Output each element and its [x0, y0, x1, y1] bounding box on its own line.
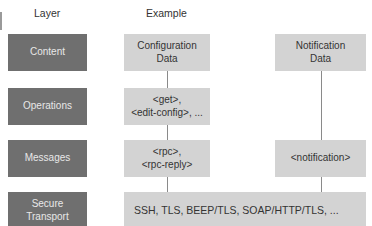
- example-notification: <notification>: [275, 140, 366, 177]
- connector-notification-data-notification: [321, 71, 322, 140]
- header-example: Example: [146, 7, 187, 19]
- layer-operations: Operations: [8, 88, 87, 125]
- example-rpc: <rpc>, <rpc-reply>: [124, 140, 210, 177]
- connector-config-operations: [167, 71, 168, 88]
- connector-notification-transport: [321, 177, 322, 192]
- layer-messages: Messages: [8, 140, 87, 177]
- header-layer: Layer: [34, 7, 60, 19]
- layer-secure-transport: Secure Transport: [8, 192, 87, 226]
- connector-messages-transport: [167, 177, 168, 192]
- example-transport: SSH, TLS, BEEP/TLS, SOAP/HTTP/TLS, ...: [124, 192, 366, 226]
- example-notification-data: Notification Data: [275, 34, 366, 71]
- connector-operations-messages: [167, 125, 168, 140]
- example-operations: <get>, <edit-config>, ...: [124, 88, 210, 125]
- layer-content: Content: [8, 34, 87, 71]
- left-edge-mark: [0, 12, 2, 30]
- example-configuration-data: Configuration Data: [124, 34, 210, 71]
